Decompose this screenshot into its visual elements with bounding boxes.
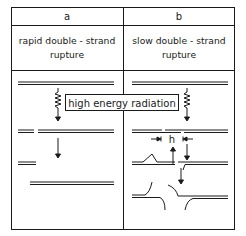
radiation-label: high energy radiation <box>68 98 176 109</box>
column-a-arrowhead-2-icon <box>56 154 61 158</box>
column-a-title-line1: rapid double - strand <box>19 35 115 46</box>
column-b-title-line2: rupture <box>162 49 196 60</box>
column-b-radiation-zigzag-icon <box>184 88 190 118</box>
column-b-down-arrowhead-icon <box>185 156 190 160</box>
column-b-final-ends <box>132 182 228 210</box>
column-b-header: b <box>176 11 182 22</box>
column-a-arrowhead-icon <box>56 117 61 121</box>
column-b-down-arrowhead-2-icon <box>179 180 184 184</box>
column-a-broken-dna <box>18 130 114 133</box>
column-a-header: a <box>64 11 70 22</box>
column-a-separated-fragments <box>18 162 114 185</box>
column-a-intact-dna <box>18 82 114 85</box>
column-b-title-line1: slow double - strand <box>132 35 225 46</box>
radiation-label-box: high energy radiation <box>66 95 179 111</box>
column-a-title-line2: rupture <box>50 49 84 60</box>
gap-label: h <box>169 134 175 145</box>
dna-rupture-diagram: a b rapid double - strand rupture slow d… <box>0 0 246 236</box>
column-b-nicked-dna <box>132 130 228 133</box>
column-b-arrowhead-icon <box>185 117 190 121</box>
column-a-radiation-zigzag-icon <box>55 88 61 118</box>
column-b-intact-dna <box>132 82 228 85</box>
column-b-up-arrowhead-icon <box>171 147 176 151</box>
column-b-melted-dna <box>132 154 228 170</box>
